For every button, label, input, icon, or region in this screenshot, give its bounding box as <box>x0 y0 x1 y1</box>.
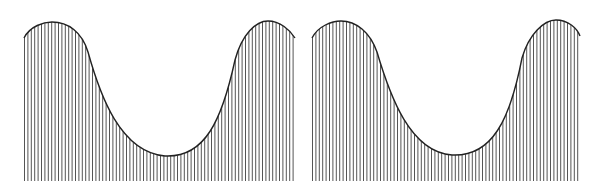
wave-outline <box>24 21 295 156</box>
double-wave-hatched-diagram <box>0 0 594 193</box>
right-wave-panel <box>312 0 580 181</box>
left-wave-panel <box>24 0 295 181</box>
figure <box>0 0 594 193</box>
